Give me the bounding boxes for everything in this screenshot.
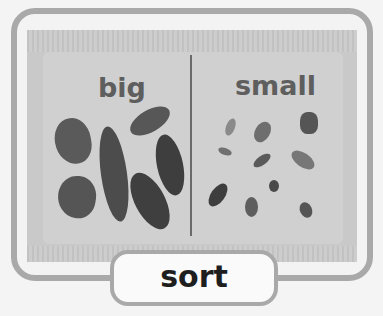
leaf-icon (269, 180, 279, 192)
heading-small: small (235, 70, 316, 101)
heading-big: big (98, 72, 146, 103)
leaf-icon (300, 112, 318, 134)
leaf-icon (245, 197, 258, 217)
vocabulary-word: sort (114, 254, 274, 302)
vocabulary-word-box: sort (110, 250, 278, 306)
scalloped-edge (329, 52, 343, 244)
panel-texture-top (27, 30, 357, 52)
divider-line (190, 55, 192, 236)
